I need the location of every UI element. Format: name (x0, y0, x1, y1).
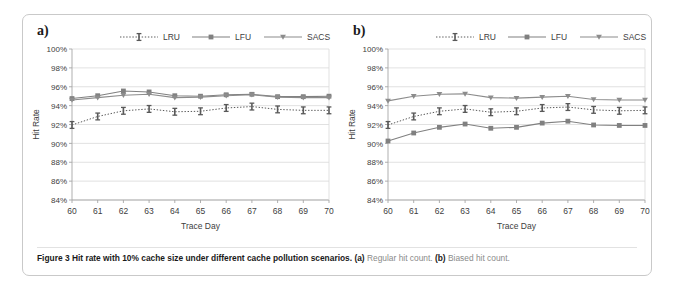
panel-b: b) 84%86%88%90%92%94%96%98%100%606162636… (341, 15, 656, 247)
y-tick-label: 100% (363, 45, 383, 54)
x-tick-label: 69 (615, 206, 625, 216)
x-tick-label: 60 (67, 206, 77, 216)
figure-screenshot: a) 84%86%88%90%92%94%96%98%100%606162636… (0, 0, 676, 289)
legend-label: SACS (307, 32, 330, 42)
x-tick-label: 68 (589, 206, 599, 216)
y-tick-label: 86% (51, 177, 67, 186)
data-marker (411, 131, 416, 136)
y-tick-label: 90% (51, 140, 67, 149)
series-lfu (386, 119, 648, 144)
x-tick-label: 61 (409, 206, 419, 216)
chart-a: 84%86%88%90%92%94%96%98%100%606162636465… (25, 15, 340, 247)
data-marker (540, 121, 545, 126)
data-marker (566, 119, 571, 124)
y-tick-label: 94% (51, 102, 67, 111)
legend-label: LFU (551, 32, 567, 42)
x-tick-label: 63 (144, 206, 154, 216)
data-marker (617, 123, 622, 128)
y-tick-label: 84% (51, 196, 67, 205)
y-tick-label: 88% (51, 158, 67, 167)
figure-frame: a) 84%86%88%90%92%94%96%98%100%606162636… (22, 14, 652, 276)
x-axis-title: Trace Day (497, 221, 537, 231)
legend-label: SACS (623, 32, 646, 42)
y-tick-label: 84% (367, 196, 383, 205)
y-tick-label: 92% (51, 121, 67, 130)
y-axis-title: Hit Rate (347, 109, 357, 140)
data-marker (643, 123, 648, 128)
legend-label: LRU (163, 32, 180, 42)
data-marker (488, 126, 493, 131)
legend-label: LFU (235, 32, 251, 42)
caption-divider (37, 247, 637, 248)
data-marker (463, 122, 468, 127)
data-marker (591, 123, 596, 128)
data-marker (437, 125, 442, 130)
x-tick-label: 64 (170, 206, 180, 216)
x-tick-label: 70 (640, 206, 650, 216)
x-tick-label: 65 (196, 206, 206, 216)
caption-b-text: Biased hit count. (446, 253, 510, 263)
caption-b-tag: (b) (435, 253, 446, 263)
data-marker (209, 35, 214, 40)
x-tick-label: 60 (383, 206, 393, 216)
y-tick-label: 94% (367, 102, 383, 111)
panel-a: a) 84%86%88%90%92%94%96%98%100%606162636… (25, 15, 340, 247)
x-tick-label: 66 (537, 206, 547, 216)
y-tick-label: 98% (51, 64, 67, 73)
x-tick-label: 68 (273, 206, 283, 216)
y-tick-label: 88% (367, 158, 383, 167)
chart-b: 84%86%88%90%92%94%96%98%100%606162636465… (341, 15, 656, 247)
data-marker (386, 139, 391, 144)
figure-caption: Figure 3 Hit rate with 10% cache size un… (37, 253, 637, 264)
data-marker (514, 125, 519, 130)
legend: LRULFUSACS (436, 32, 646, 42)
series-sacs (385, 92, 648, 104)
x-tick-label: 67 (247, 206, 257, 216)
y-tick-label: 86% (367, 177, 383, 186)
y-axis-title: Hit Rate (31, 109, 41, 140)
x-axis-title: Trace Day (181, 221, 221, 231)
x-tick-label: 67 (563, 206, 573, 216)
x-tick-label: 63 (460, 206, 470, 216)
x-tick-label: 61 (93, 206, 103, 216)
data-marker (525, 35, 530, 40)
y-tick-label: 98% (367, 64, 383, 73)
y-tick-label: 92% (367, 121, 383, 130)
data-marker (385, 99, 391, 104)
x-tick-label: 62 (119, 206, 129, 216)
x-tick-label: 70 (324, 206, 334, 216)
x-tick-label: 65 (512, 206, 522, 216)
y-tick-label: 90% (367, 140, 383, 149)
legend-label: LRU (479, 32, 496, 42)
y-tick-label: 96% (51, 83, 67, 92)
caption-a-tag: (a) (354, 253, 364, 263)
data-marker (121, 89, 126, 94)
caption-title: Figure 3 Hit rate with 10% cache size un… (37, 253, 352, 263)
x-tick-label: 69 (299, 206, 309, 216)
legend: LRULFUSACS (120, 32, 330, 42)
x-tick-label: 64 (486, 206, 496, 216)
y-tick-label: 96% (367, 83, 383, 92)
x-tick-label: 66 (221, 206, 231, 216)
x-tick-label: 62 (435, 206, 445, 216)
y-tick-label: 100% (47, 45, 67, 54)
caption-a-text: Regular hit count. (365, 253, 435, 263)
